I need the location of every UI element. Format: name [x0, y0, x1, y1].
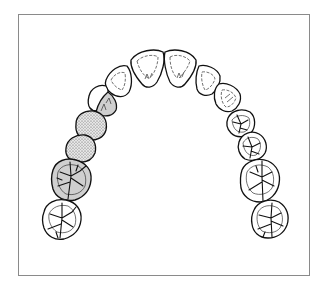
tooth-17 — [43, 200, 82, 240]
tooth-23 — [214, 83, 240, 111]
tooth-16 — [52, 159, 92, 200]
tooth-21 — [164, 50, 196, 87]
tooth-15 — [66, 135, 96, 162]
tooth-26 — [240, 159, 279, 202]
dental-arch-diagram — [0, 0, 327, 291]
tooth-27 — [252, 200, 289, 238]
tooth-11 — [131, 50, 164, 87]
tooth-25 — [238, 132, 266, 160]
tooth-12 — [105, 66, 131, 97]
